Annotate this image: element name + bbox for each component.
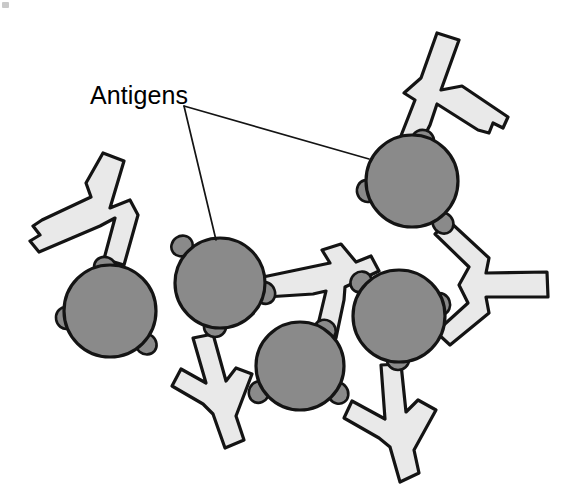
antigen-upper-right — [366, 135, 458, 227]
antigen-center — [175, 238, 265, 328]
scan-corner-mark — [2, 2, 9, 8]
antibody-center-bridge — [172, 334, 252, 448]
antigens-label: Antigens — [90, 81, 188, 109]
antigen-right-mid — [353, 270, 445, 362]
antigen-bottom-mid — [256, 322, 344, 410]
figure-canvas: Antigens — [0, 0, 574, 494]
antigen-antibody-diagram: Antigens — [0, 0, 574, 494]
leader-to-center-antigen — [184, 106, 216, 240]
antigen-left — [64, 265, 156, 357]
leader-to-upper-right-antigen — [184, 106, 369, 159]
antibody-bottom-right-free — [344, 364, 436, 482]
antibody-right-bridge — [435, 221, 548, 345]
antibody-left-free — [30, 153, 138, 265]
leader-line-layer — [184, 106, 369, 240]
